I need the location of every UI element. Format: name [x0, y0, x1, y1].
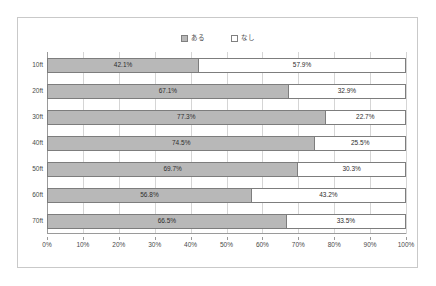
x-axis-tick-label: 10%: [63, 242, 103, 249]
legend-item-nashi: なし: [231, 35, 255, 42]
y-axis-tick-label: 30ft: [17, 114, 43, 121]
x-axis-tickmark: [155, 237, 156, 240]
legend-label-nashi: なし: [241, 35, 255, 42]
x-axis-tick-label: 100%: [386, 242, 426, 249]
bar-value-label-nashi: 30.3%: [342, 166, 360, 173]
bar-segment-aru: 66.5%: [47, 214, 286, 229]
bar-segment-nashi: 33.5%: [286, 214, 406, 229]
bar-segment-nashi: 30.3%: [297, 162, 406, 177]
x-axis-tickmark: [191, 237, 192, 240]
x-axis-tick-label: 90%: [350, 242, 390, 249]
bar-segment-nashi: 22.7%: [325, 110, 406, 125]
bar-value-label-aru: 42.1%: [114, 62, 132, 69]
legend-label-aru: ある: [191, 35, 205, 42]
legend-swatch-icon-aru: [181, 35, 188, 42]
legend-swatch-icon-nashi: [231, 35, 238, 42]
bar-value-label-aru: 67.1%: [159, 88, 177, 95]
x-axis-tick-label: 60%: [242, 242, 282, 249]
bar-segment-aru: 67.1%: [47, 84, 288, 99]
bar-value-label-nashi: 22.7%: [356, 114, 374, 121]
y-axis-tick-label: 40ft: [17, 140, 43, 147]
bar-segment-aru: 69.7%: [47, 162, 297, 177]
bar-value-label-aru: 66.5%: [158, 218, 176, 225]
y-axis-tick-label: 20ft: [17, 88, 43, 95]
chart-figure: ある なし 10ft20ft30ft40ft50ft60ft70ft 42.1%…: [0, 0, 436, 286]
bar-row: 77.3%22.7%: [47, 110, 406, 125]
bar-row: 69.7%30.3%: [47, 162, 406, 177]
x-axis-tick-label: 0%: [27, 242, 67, 249]
bar-segment-aru: 74.5%: [47, 136, 314, 151]
bar-row: 42.1%57.9%: [47, 58, 406, 73]
x-axis-tick-label: 30%: [135, 242, 175, 249]
x-axis-tickmark: [406, 237, 407, 240]
bar-segment-aru: 56.8%: [47, 188, 251, 203]
x-axis-line: [47, 233, 406, 234]
x-axis-tick-label: 50%: [207, 242, 247, 249]
bar-row: 74.5%25.5%: [47, 136, 406, 151]
bar-value-label-nashi: 57.9%: [293, 62, 311, 69]
legend-item-aru: ある: [181, 35, 205, 42]
plot-area: 42.1%57.9%67.1%32.9%77.3%22.7%74.5%25.5%…: [47, 52, 406, 234]
chart-legend: ある なし: [0, 31, 436, 45]
bar-value-label-nashi: 43.2%: [319, 192, 337, 199]
bar-value-label-nashi: 33.5%: [337, 218, 355, 225]
gridline-100: [406, 52, 407, 234]
bar-segment-nashi: 25.5%: [314, 136, 406, 151]
y-axis-ticks: 10ft20ft30ft40ft50ft60ft70ft: [13, 52, 43, 234]
x-axis-tickmark: [227, 237, 228, 240]
bar-series-container: 42.1%57.9%67.1%32.9%77.3%22.7%74.5%25.5%…: [47, 52, 406, 234]
x-axis-tickmark: [262, 237, 263, 240]
bar-value-label-aru: 69.7%: [163, 166, 181, 173]
x-axis-tickmark: [370, 237, 371, 240]
bar-value-label-aru: 77.3%: [177, 114, 195, 121]
x-axis-tickmark: [83, 237, 84, 240]
bar-value-label-nashi: 25.5%: [351, 140, 369, 147]
x-axis-tickmark: [334, 237, 335, 240]
bar-segment-nashi: 32.9%: [288, 84, 406, 99]
bar-value-label-nashi: 32.9%: [338, 88, 356, 95]
x-axis-tickmark: [47, 237, 48, 240]
bar-row: 66.5%33.5%: [47, 214, 406, 229]
bar-row: 67.1%32.9%: [47, 84, 406, 99]
y-axis-tick-label: 50ft: [17, 166, 43, 173]
bar-segment-aru: 42.1%: [47, 58, 198, 73]
bar-segment-aru: 77.3%: [47, 110, 325, 125]
y-axis-tick-label: 10ft: [17, 62, 43, 69]
y-axis-tick-label: 60ft: [17, 192, 43, 199]
y-axis-tick-label: 70ft: [17, 218, 43, 225]
bar-value-label-aru: 74.5%: [172, 140, 190, 147]
x-axis-tick-label: 70%: [278, 242, 318, 249]
x-axis-tick-label: 40%: [171, 242, 211, 249]
x-axis-tickmark: [119, 237, 120, 240]
x-axis-tick-label: 80%: [314, 242, 354, 249]
bar-segment-nashi: 57.9%: [198, 58, 406, 73]
x-axis-tick-label: 20%: [99, 242, 139, 249]
bar-value-label-aru: 56.8%: [140, 192, 158, 199]
x-axis-tickmark: [298, 237, 299, 240]
x-axis-ticks: 0%10%20%30%40%50%60%70%80%90%100%: [47, 237, 406, 249]
bar-segment-nashi: 43.2%: [251, 188, 406, 203]
bar-row: 56.8%43.2%: [47, 188, 406, 203]
